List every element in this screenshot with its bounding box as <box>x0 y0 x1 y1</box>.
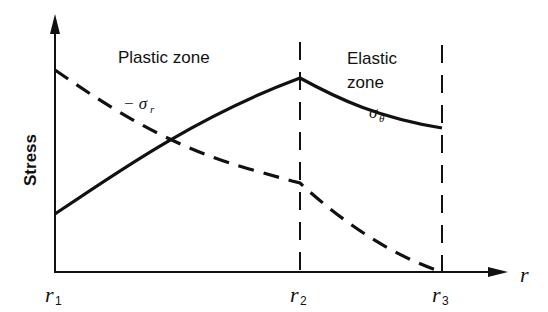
neg-sigma-r-label: − σ r <box>123 94 155 115</box>
sigma-theta-label: σ θ <box>369 103 385 124</box>
svg-text:r: r <box>45 282 54 307</box>
plastic-zone-label: Plastic zone <box>118 48 210 67</box>
svg-text:r: r <box>290 282 299 307</box>
y-axis-label: Stress <box>21 134 40 186</box>
svg-text:− σ: − σ <box>123 94 148 113</box>
elastic-zone-label-line2: zone <box>347 73 384 92</box>
svg-text:θ: θ <box>379 112 385 124</box>
svg-text:r: r <box>432 282 441 307</box>
svg-text:3: 3 <box>442 294 449 308</box>
tick-label-r2: r 2 <box>290 282 307 308</box>
sigma-theta-curve <box>55 78 442 214</box>
svg-text:σ: σ <box>369 103 378 122</box>
x-axis-arrow-icon <box>488 267 508 277</box>
stress-distribution-diagram: Stress r Plastic zone Elastic zone − σ r… <box>0 0 548 312</box>
svg-text:r: r <box>150 103 155 115</box>
tick-label-r3: r 3 <box>432 282 449 308</box>
x-axis-label: r <box>520 262 529 287</box>
elastic-zone-label-line1: Elastic <box>347 49 398 68</box>
y-axis-arrow-icon <box>50 14 60 34</box>
tick-label-r1: r 1 <box>45 282 62 308</box>
svg-text:1: 1 <box>55 294 62 308</box>
svg-text:2: 2 <box>300 294 307 308</box>
